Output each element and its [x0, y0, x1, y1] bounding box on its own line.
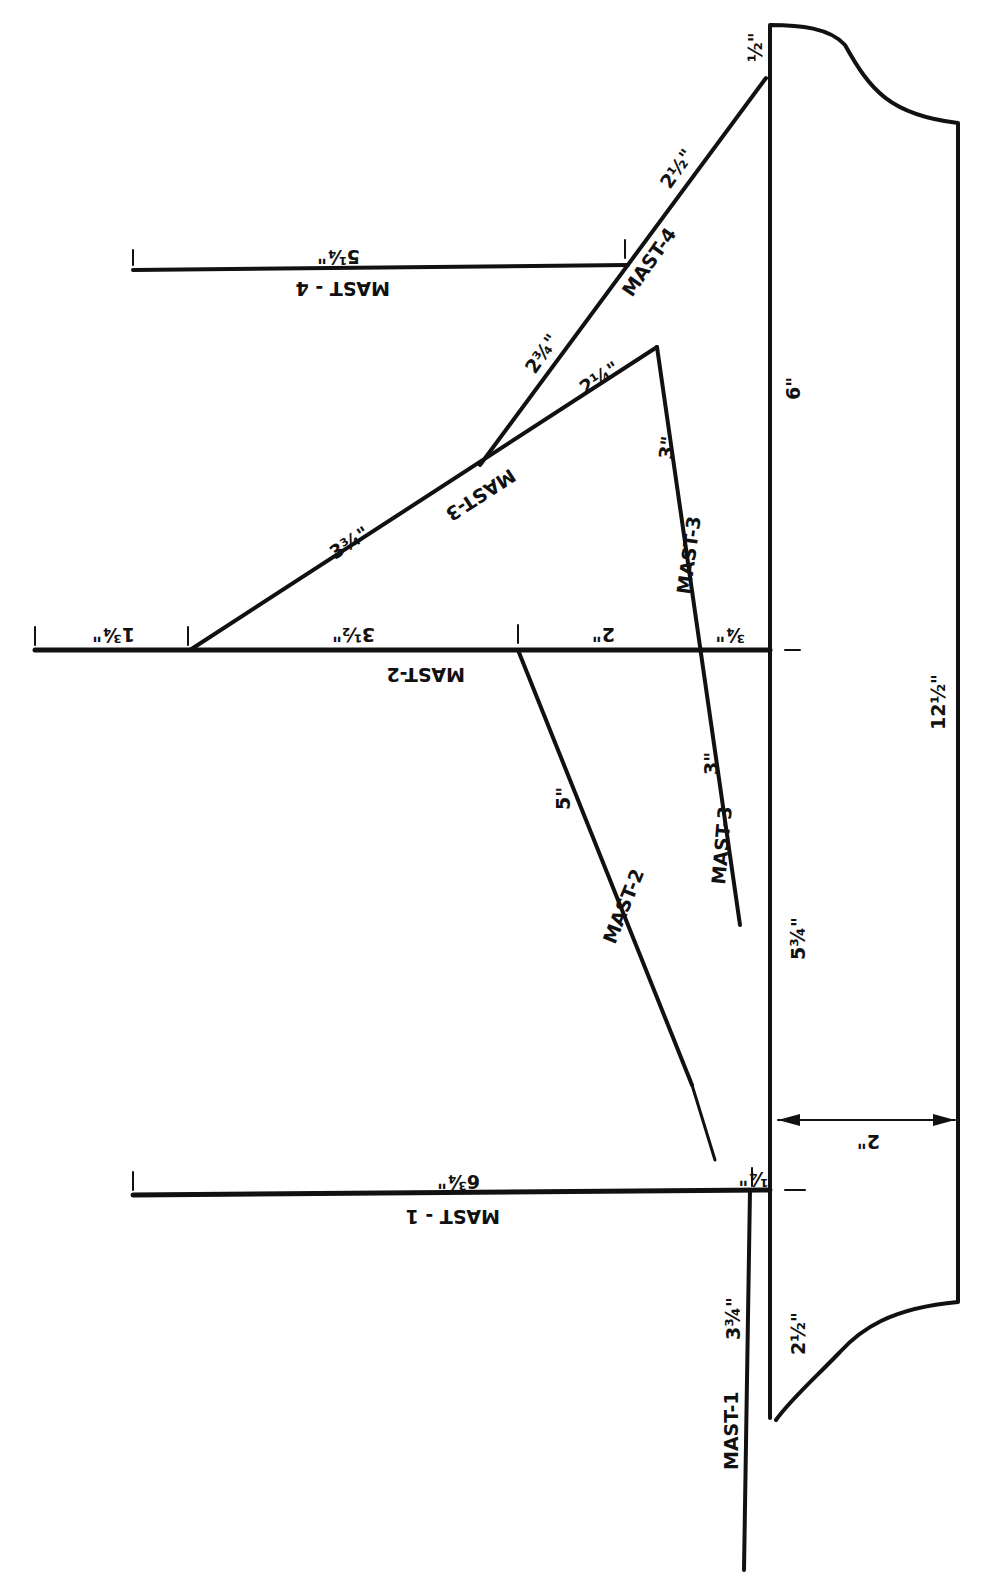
mast2-stay	[518, 650, 692, 1085]
hull-length-label: 12½"	[927, 674, 949, 730]
mast-diagram: ½" 2½" MAST-4 5¼" MAST - 4 2¾" 2¼" MAST-…	[0, 0, 1005, 1594]
mast2-stay-name: MAST-2	[598, 865, 648, 946]
mast2-horizontal-name: MAST-2	[386, 664, 465, 686]
stern-label: 2½"	[787, 1312, 809, 1355]
mast1-lower-label: 3¾"	[722, 1297, 744, 1340]
mast3-crossing-label: MAST-3	[442, 465, 520, 526]
mast4-length-label: 5¼"	[317, 246, 360, 268]
mast4-horizontal-name: MAST - 4	[295, 278, 390, 300]
arrow-right-icon	[933, 1114, 955, 1126]
hull-width-label: 2"	[857, 1131, 880, 1153]
mast2-seg-a-label: 1¾"	[92, 624, 135, 646]
mast3-seg-b-label: 3¾"	[325, 522, 373, 564]
mast1-length-label: 6¾"	[437, 1171, 480, 1193]
mast1-offset-label: ¼"	[738, 1168, 768, 1190]
hull-segment-b-label: 5¾"	[787, 917, 809, 960]
mast3-seg-a-label: 2¼"	[575, 357, 623, 399]
mast2-stay-faded	[692, 1085, 715, 1160]
mast3-seg-d-label: 3"	[700, 752, 722, 775]
mast4-horizontal	[133, 265, 628, 270]
mast4-stay-a-label: 2½"	[655, 145, 698, 193]
mast1-lower-name: MAST-1	[720, 1391, 742, 1470]
mast2-seg-b-label: 3½"	[332, 624, 375, 646]
mast1-vertical	[744, 1190, 750, 1570]
mast2-seg-c-label: 2"	[592, 624, 615, 646]
arrow-left-icon	[778, 1114, 800, 1126]
mast2-stay-label: 5"	[552, 787, 574, 810]
mast3-upper-label: MAST-3	[672, 515, 705, 596]
mast4-stay-b-label: 2¾"	[520, 330, 563, 378]
hull-segment-a-label: 6"	[782, 377, 804, 400]
mast3-offset-label: ¾"	[715, 624, 745, 646]
mast3-seg-c-label: 3"	[654, 435, 679, 461]
bow-offset-label: ½"	[744, 32, 766, 62]
mast1-horizontal-name: MAST - 1	[405, 1206, 500, 1228]
mast4-stay	[480, 78, 766, 465]
